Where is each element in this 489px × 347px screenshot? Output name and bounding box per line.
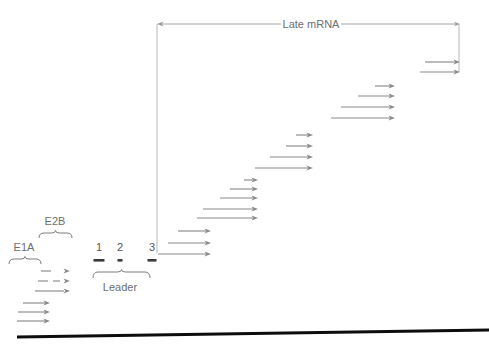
leader-segment-bar-2 <box>118 259 123 262</box>
e2b-label: E2B <box>45 215 66 227</box>
leader-label: Leader <box>103 281 138 293</box>
genome-baseline <box>17 330 489 337</box>
leader-segment-bar-3 <box>148 259 157 262</box>
e2b-brace <box>39 231 72 239</box>
e1a-label: E1A <box>14 241 35 253</box>
late-mrna-label: Late mRNA <box>283 18 341 30</box>
e1a-brace <box>9 257 41 265</box>
leader-number-2: 2 <box>117 241 123 253</box>
leader-number-3: 3 <box>149 241 155 253</box>
e2b-arrow-1-head <box>64 268 71 273</box>
leader-segment-bar-1 <box>94 259 105 262</box>
leader-brace <box>93 270 150 279</box>
e2b-arrow-2-head <box>64 278 71 283</box>
figure-canvas: Late mRNA123LeaderE1AE2B <box>0 0 489 347</box>
leader-number-1: 1 <box>96 241 102 253</box>
e2b-arrow-3-head <box>64 288 71 293</box>
adenovirus-transcription-map: Late mRNA123LeaderE1AE2B <box>0 0 489 347</box>
